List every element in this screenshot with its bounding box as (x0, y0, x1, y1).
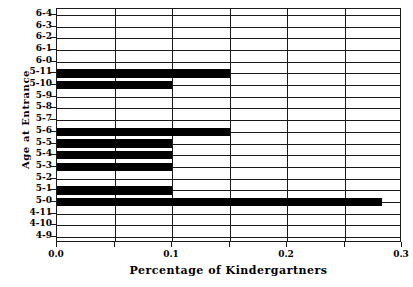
y-axis-tick (50, 84, 56, 85)
plot-area (56, 8, 401, 242)
y-axis-tick (50, 213, 56, 214)
y-gridline (57, 27, 400, 28)
y-gridline (57, 120, 400, 121)
x-axis-tick (114, 242, 115, 247)
y-gridline (57, 38, 400, 39)
y-gridline (57, 214, 400, 215)
y-axis-tick-label: 6-2 (18, 32, 52, 41)
bar (57, 81, 172, 89)
x-axis-tick (286, 242, 287, 247)
y-axis-tick (50, 107, 56, 108)
y-axis-tick (50, 72, 56, 73)
y-axis-tick-label: 5-10 (18, 79, 52, 88)
y-axis-tick-label: 4-9 (18, 231, 52, 240)
y-axis-tick-label: 6-3 (18, 21, 52, 30)
y-axis-tick (50, 189, 56, 190)
y-axis-tick-label: 5-4 (18, 149, 52, 158)
x-axis-tick (344, 242, 345, 247)
y-axis-tick-label: 4-11 (18, 208, 52, 217)
y-axis-tick (50, 37, 56, 38)
y-axis-tick (50, 236, 56, 237)
y-gridline (57, 97, 400, 98)
y-axis-tick-label: 5-8 (18, 102, 52, 111)
y-gridline (57, 237, 400, 238)
x-axis-tick-label: 0.1 (151, 249, 191, 259)
y-axis-tick-label: 4-10 (18, 219, 52, 228)
y-gridline (57, 225, 400, 226)
y-axis-tick (50, 49, 56, 50)
y-axis-tick-label: 5-9 (18, 91, 52, 100)
y-axis-tick (50, 14, 56, 15)
y-axis-tick (50, 224, 56, 225)
x-axis-tick-label: 0.2 (266, 249, 306, 259)
y-axis-tick (50, 26, 56, 27)
x-axis-title: Percentage of Kindergartners (56, 264, 401, 277)
y-axis-tick-label: 5-6 (18, 126, 52, 135)
y-axis-tick-label: 6-4 (18, 9, 52, 18)
bar (57, 128, 230, 136)
y-axis-tick (50, 119, 56, 120)
y-axis-tick (50, 154, 56, 155)
y-axis-tick (50, 178, 56, 179)
y-axis-tick-label: 5-0 (18, 196, 52, 205)
bar (57, 198, 382, 206)
x-axis-tick (229, 242, 230, 247)
y-gridline (57, 108, 400, 109)
y-axis-tick (50, 61, 56, 62)
y-axis-tick-label: 5-5 (18, 138, 52, 147)
y-axis-tick-label: 6-0 (18, 56, 52, 65)
y-gridline (57, 62, 400, 63)
bar (57, 139, 172, 147)
y-axis-tick-label: 5-7 (18, 114, 52, 123)
x-axis-tick-label: 0.3 (381, 249, 413, 259)
x-axis-tick-label: 0.0 (36, 249, 76, 259)
y-gridline (57, 50, 400, 51)
y-axis-tick (50, 166, 56, 167)
y-axis-tick (50, 131, 56, 132)
y-axis-tick-label: 6-1 (18, 44, 52, 53)
y-gridline (57, 179, 400, 180)
y-axis-tick-labels: 6-46-36-26-16-05-115-105-95-85-75-65-55-… (14, 0, 52, 287)
y-axis-tick-label: 5-2 (18, 173, 52, 182)
y-axis-tick (50, 201, 56, 202)
y-axis-tick-label: 5-11 (18, 67, 52, 76)
y-axis-tick-label: 5-1 (18, 184, 52, 193)
x-axis-tick (171, 242, 172, 247)
bar (57, 163, 172, 171)
y-gridline (57, 15, 400, 16)
x-axis-tick (56, 242, 57, 247)
y-axis-tick (50, 96, 56, 97)
y-axis-tick (50, 143, 56, 144)
y-axis-tick-label: 5-3 (18, 161, 52, 170)
bar (57, 186, 172, 194)
x-axis-tick (401, 242, 402, 247)
bar (57, 151, 172, 159)
bar (57, 69, 230, 77)
